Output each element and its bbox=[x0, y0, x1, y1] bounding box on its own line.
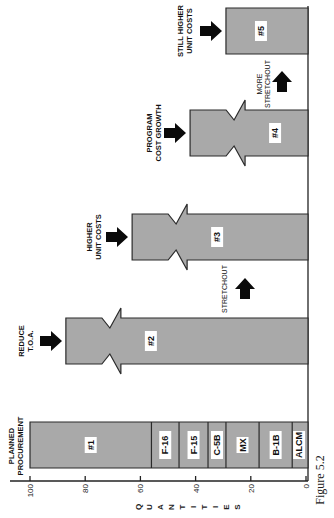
tick-label: 80 bbox=[81, 483, 90, 492]
segment-label: MX bbox=[238, 438, 248, 452]
annotation-stretchout: STRETCHOUT bbox=[221, 264, 228, 313]
segment-label: B-1B bbox=[271, 434, 281, 456]
tick-label-group: 0 bbox=[302, 483, 311, 488]
tick-label-group: 60 bbox=[136, 483, 145, 492]
annotation-line: STRETCHOUT bbox=[221, 264, 228, 313]
segment-label: ALCM bbox=[294, 432, 304, 458]
annotation-line: MORE bbox=[256, 73, 263, 94]
axis-title-group: QUANTITIES bbox=[134, 504, 242, 510]
annotation-line: STRETCHOUT bbox=[264, 59, 271, 108]
arrow-up-icon bbox=[235, 278, 255, 299]
tick-label: 0 bbox=[302, 483, 311, 488]
segment-label: F-16 bbox=[160, 436, 170, 455]
annotation-more-stretchout: MORE STRETCHOUT bbox=[256, 59, 271, 108]
arrow-right-icon bbox=[200, 21, 222, 41]
bar-5 bbox=[226, 8, 308, 54]
arrow-right-icon bbox=[164, 123, 186, 143]
tick-label: 60 bbox=[136, 483, 145, 492]
annotation-line: COST GROWTH bbox=[154, 104, 163, 161]
annotation-line: UNIT COSTS bbox=[94, 214, 103, 259]
annotation-line: UNIT COSTS bbox=[185, 8, 194, 53]
annotation-line: PROCUREMENT bbox=[16, 416, 25, 475]
tick-label-group: 20 bbox=[247, 483, 256, 492]
annotation-still-higher-unit-costs: STILL HIGHER UNIT COSTS bbox=[176, 4, 194, 57]
tick-label: 100 bbox=[26, 483, 35, 497]
annotation-higher-unit-costs: HIGHER UNIT COSTS bbox=[85, 214, 103, 259]
tick-label-group: 80 bbox=[81, 483, 90, 492]
tick-label: 40 bbox=[192, 483, 201, 492]
tick-label-group: 40 bbox=[192, 483, 201, 492]
figure-5-2-chart: 020406080100 QUANTITIES #2#3#4#5 #1F-16F… bbox=[0, 0, 334, 518]
tick-label-group: 100 bbox=[26, 483, 35, 497]
arrow-up-icon bbox=[272, 71, 292, 92]
bar-5-label: #5 bbox=[256, 26, 266, 36]
axis-title-text: QUANTITIES bbox=[134, 504, 242, 510]
segment-label: #1 bbox=[86, 440, 96, 450]
segment-label: F-15 bbox=[189, 436, 199, 455]
bar-4 bbox=[190, 100, 308, 166]
annotation-reduce-toa: REDUCE T.O.A. bbox=[17, 325, 35, 357]
bar-4-label: #4 bbox=[270, 128, 280, 138]
arrow-right-icon bbox=[106, 227, 128, 247]
annotation-program-cost-growth: PROGRAM COST GROWTH bbox=[145, 104, 163, 161]
figure-caption: Figure 5.2 bbox=[313, 455, 327, 504]
bar-2 bbox=[66, 308, 308, 374]
arrow-right-icon bbox=[40, 331, 62, 351]
caption-text: Figure 5.2 bbox=[313, 455, 327, 504]
bar-2-label: #2 bbox=[146, 336, 156, 346]
annotation-line: T.O.A. bbox=[26, 330, 35, 351]
annotation-planned-procurement: PLANNED PROCUREMENT bbox=[7, 416, 25, 475]
tick-label: 20 bbox=[247, 483, 256, 492]
segment-label: C-5B bbox=[212, 434, 222, 456]
bar-3-label: #3 bbox=[212, 232, 222, 242]
axis-ticks: 020406080100 bbox=[26, 476, 311, 497]
